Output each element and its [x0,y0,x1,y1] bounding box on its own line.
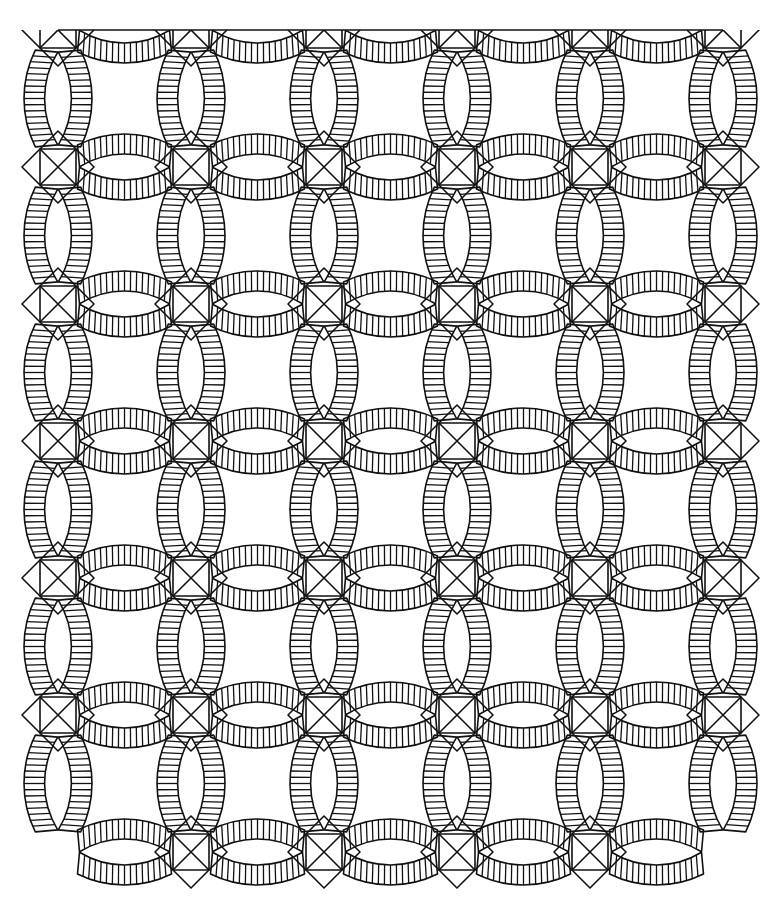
piecing-tick [414,137,415,157]
piecing-tick [691,665,712,666]
piecing-tick [615,142,617,163]
piecing-tick [197,545,219,546]
piecing-tick [281,862,282,882]
piecing-tick [61,688,83,690]
piecing-tick [680,177,681,197]
piecing-tick [696,33,698,54]
piecing-tick [33,741,55,743]
piecing-tick [691,173,692,194]
piecing-tick [638,178,639,198]
piecing-tick [194,741,216,743]
piecing-tick [297,581,299,602]
piecing-tick [463,134,485,135]
piecing-tick [68,485,89,486]
piecing-tick [64,408,86,409]
piecing-tick [559,671,580,672]
piecing-tick [336,628,357,629]
piecing-tick [560,265,581,266]
piecing-tick [197,610,219,611]
piecing-tick [425,140,426,161]
piecing-tick [142,136,143,156]
piecing-tick [83,33,85,54]
piecing-tick [160,759,181,760]
piecing-tick [372,315,373,335]
piecing-tick [733,123,754,124]
piecing-tick [729,62,751,63]
piecing-tick [83,279,85,300]
piecing-tick [201,397,222,398]
piecing-tick [239,589,240,609]
piecing-tick [166,414,188,416]
melon-arc-lower [78,578,172,611]
piecing-tick [61,467,83,469]
piecing-tick [429,62,451,63]
piecing-tick [294,68,315,69]
melon-arc-upper [78,819,172,852]
piecing-tick [297,444,299,465]
piecing-tick [593,688,615,690]
piecing-tick [499,274,500,294]
piecing-tick [287,686,288,707]
piecing-tick [330,610,352,611]
piecing-tick [64,747,86,748]
piecing-tick [598,265,619,266]
piecing-tick [467,485,488,486]
piecing-tick [693,813,714,814]
piecing-tick [460,741,482,743]
piecing-tick [430,827,432,848]
piecing-tick [94,38,95,59]
piecing-tick [66,753,87,754]
piecing-tick [203,117,224,118]
diamond-seam [439,560,475,596]
piecing-tick [292,765,313,766]
piecing-tick [372,136,373,156]
piecing-tick [632,274,633,294]
piecing-tick [488,858,489,879]
piecing-tick [674,315,675,335]
piecing-tick [615,170,617,191]
diamond-seam [306,834,342,870]
piecing-tick [695,271,717,272]
piecing-tick [327,277,349,279]
piecing-tick [731,342,752,343]
piecing-tick [733,671,754,672]
piecing-tick [148,548,149,568]
piecing-tick [560,539,581,540]
melon-arc-upper [344,819,438,852]
piecing-tick [425,277,426,298]
piecing-tick [482,33,484,54]
piecing-tick [159,802,180,803]
piecing-tick [425,310,426,331]
piecing-tick [469,254,490,255]
piecing-tick [61,56,83,58]
piecing-tick [553,38,554,59]
piecing-tick [692,211,713,212]
piecing-tick [201,622,222,623]
piecing-tick [469,765,490,766]
piecing-tick [332,265,353,266]
piecing-tick [621,140,622,161]
piecing-tick [294,402,315,403]
piecing-tick [26,802,47,803]
melon-arc-right [58,50,92,147]
piecing-tick [696,581,698,602]
piecing-tick [292,173,293,194]
piecing-tick [615,827,617,848]
piecing-tick [547,314,548,334]
diamond-seam [572,560,608,596]
piecing-tick [691,80,712,81]
piecing-tick [467,348,488,349]
piecing-tick [408,136,409,156]
piecing-tick [465,753,486,754]
piecing-tick [197,62,219,63]
piecing-tick [360,723,361,744]
piecing-tick [726,414,748,416]
piecing-tick [160,348,181,349]
piecing-tick [154,549,155,570]
melon-arc-left [556,598,590,695]
melon-arc-lower [477,578,571,611]
piecing-tick [372,726,373,746]
piecing-tick [366,588,367,608]
piecing-tick [194,467,216,469]
piecing-tick [355,277,356,298]
